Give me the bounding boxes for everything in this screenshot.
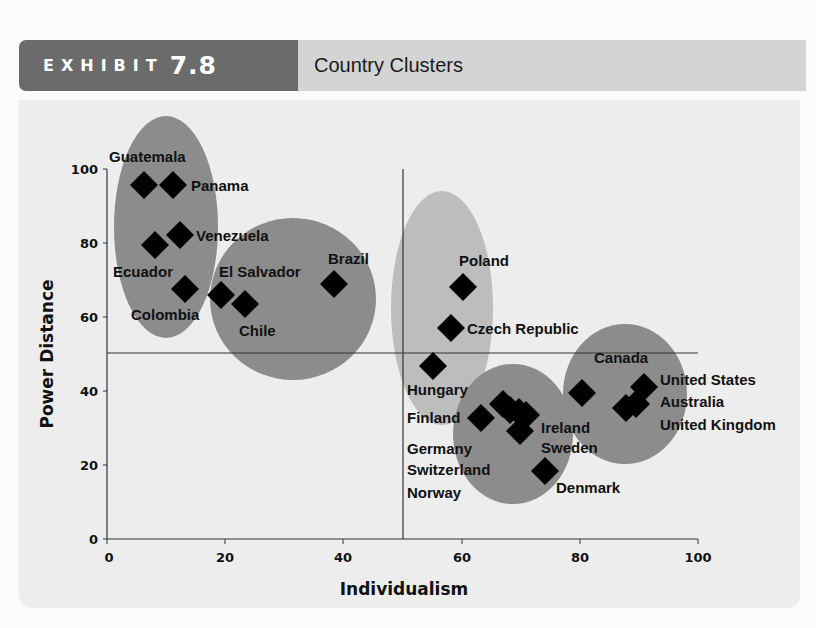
label-denmark: Denmark: [556, 479, 621, 496]
y-tick-40: 40: [80, 384, 98, 399]
label-venezuela: Venezuela: [196, 227, 269, 244]
label-finland: Finland: [407, 409, 460, 426]
y-tick-100: 100: [71, 162, 98, 177]
label-brazil: Brazil: [328, 250, 369, 267]
label-norway: Norway: [407, 484, 462, 501]
x-tick-40: 40: [334, 550, 352, 565]
label-colombia: Colombia: [131, 306, 200, 323]
label-hungary: Hungary: [407, 381, 469, 398]
label-ecuador: Ecuador: [113, 263, 173, 280]
y-tick-60: 60: [80, 310, 98, 325]
label-czech-republic: Czech Republic: [467, 320, 579, 337]
label-switzerland: Switzerland: [407, 461, 490, 478]
x-tick-100: 100: [684, 550, 711, 565]
label-guatemala: Guatemala: [109, 148, 186, 165]
x-tick-60: 60: [453, 550, 471, 565]
label-el-salvador: El Salvador: [219, 263, 301, 280]
label-poland: Poland: [459, 252, 509, 269]
y-axis-title: Power Distance: [37, 279, 57, 428]
label-ireland: Ireland: [541, 419, 590, 436]
label-canada: Canada: [594, 349, 649, 366]
label-sweden: Sweden: [541, 439, 598, 456]
y-tick-20: 20: [80, 458, 98, 473]
x-axis-title: Individualism: [340, 579, 469, 599]
label-united-kingdom: United Kingdom: [660, 416, 776, 433]
y-tick-0: 0: [89, 532, 98, 547]
label-panama: Panama: [191, 177, 249, 194]
y-axis: 100 80 60 40 20 0 Power Distance: [37, 162, 107, 547]
x-tick-20: 20: [216, 550, 234, 565]
scatter-chart: 100 80 60 40 20 0 Power Distance 0 20 40…: [0, 0, 816, 628]
label-australia: Australia: [660, 393, 725, 410]
label-chile: Chile: [239, 322, 276, 339]
x-tick-0: 0: [104, 550, 113, 565]
y-tick-80: 80: [80, 236, 98, 251]
label-united-states: United States: [660, 371, 756, 388]
cluster-shapes: [114, 116, 687, 504]
x-tick-80: 80: [571, 550, 589, 565]
label-germany: Germany: [407, 440, 473, 457]
x-axis: 0 20 40 60 80 100 Individualism: [104, 539, 711, 599]
